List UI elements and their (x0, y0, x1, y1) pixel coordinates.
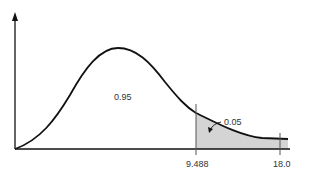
y-axis-arrow-icon (12, 12, 18, 21)
center-area-label: 0.95 (114, 93, 132, 102)
critical-value-tick-label: 9.488 (186, 160, 209, 169)
tail-area-label: 0.05 (224, 118, 242, 127)
density-curve (15, 48, 288, 149)
end-tick-label: 18.0 (273, 160, 291, 169)
chi-square-chart (0, 0, 309, 181)
